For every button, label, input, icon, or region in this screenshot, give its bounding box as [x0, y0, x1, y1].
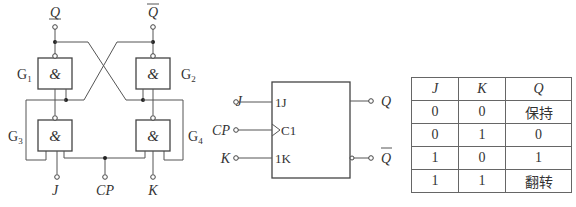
q-bar-pin-label: Q: [381, 151, 391, 166]
cp-pin-label: CP: [212, 123, 230, 138]
header-q: Q: [506, 78, 572, 101]
table-row: 1 0 1: [412, 147, 572, 170]
cell-q: 保持: [506, 101, 572, 124]
inversion-bubble: [53, 54, 58, 59]
cell-k: 1: [459, 170, 506, 193]
table-row: 0 1 0: [412, 124, 572, 147]
cell-q: 1: [506, 147, 572, 170]
table-row: 0 0 保持: [412, 101, 572, 124]
and-symbol: &: [49, 128, 61, 144]
inversion-bubble: [53, 116, 58, 121]
gate-g1-label: G1: [17, 67, 32, 84]
truth-table: J K Q 0 0 保持 0 1 0 1 0 1 1 1 翻转: [411, 77, 572, 193]
header-j: J: [412, 78, 459, 101]
q-bar-output-pin[interactable]: [151, 25, 156, 30]
k-input-label: K: [147, 183, 158, 198]
cell-q: 翻转: [506, 170, 572, 193]
cell-j: 1: [412, 170, 459, 193]
jk-logic-symbol: J 1J CP C1 K 1K Q Q: [212, 82, 392, 178]
inversion-bubble: [151, 54, 156, 59]
gate-g2-label: G2: [181, 67, 196, 84]
cell-q: 0: [506, 124, 572, 147]
c-inner-label: C1: [281, 123, 296, 138]
j-input-pin[interactable]: [55, 175, 60, 180]
cp-pin[interactable]: [234, 128, 239, 133]
table-header-row: J K Q: [412, 78, 572, 101]
cell-k: 1: [459, 124, 506, 147]
cell-k: 0: [459, 147, 506, 170]
j-inner-label: 1J: [275, 95, 287, 110]
q-output-pin[interactable]: [53, 25, 58, 30]
q-bar-pin[interactable]: [369, 156, 374, 161]
q-output-label: Q: [50, 5, 60, 20]
gate-level-circuit: Q Q & G1 & G2: [8, 4, 203, 198]
q-pin[interactable]: [369, 99, 374, 104]
q-bar-output-label: Q: [148, 5, 158, 20]
k-pin-label: K: [220, 151, 231, 166]
inversion-bubble: [151, 116, 156, 121]
cp-input-label: CP: [96, 183, 114, 198]
j-pin[interactable]: [234, 100, 239, 105]
cell-j: 0: [412, 101, 459, 124]
k-inner-label: 1K: [275, 151, 292, 166]
header-k: K: [459, 78, 506, 101]
gate-g4-label: G4: [188, 129, 203, 146]
q-pin-label: Q: [381, 94, 391, 109]
j-input-label: J: [52, 183, 59, 198]
cell-j: 0: [412, 124, 459, 147]
inversion-bubble: [350, 156, 354, 160]
junction-dot: [103, 156, 107, 160]
cell-k: 0: [459, 101, 506, 124]
k-input-pin[interactable]: [151, 175, 156, 180]
and-symbol: &: [147, 66, 159, 82]
cp-input-pin[interactable]: [103, 175, 108, 180]
k-pin[interactable]: [234, 156, 239, 161]
and-symbol: &: [147, 128, 159, 144]
gate-g3-label: G3: [8, 129, 23, 146]
cell-j: 1: [412, 147, 459, 170]
and-symbol: &: [49, 66, 61, 82]
table-row: 1 1 翻转: [412, 170, 572, 193]
